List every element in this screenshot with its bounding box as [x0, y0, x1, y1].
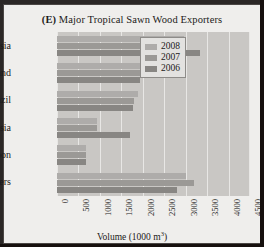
- bar-brazil-2006: [57, 105, 133, 111]
- bar-indonesia-2007: [57, 125, 97, 131]
- category-label-thailand: Thailand: [0, 67, 11, 78]
- x-tick-3500: 3500: [210, 199, 220, 229]
- legend-label-2006: 2006: [161, 63, 180, 74]
- bar-group: [57, 87, 250, 114]
- bar-group: [57, 169, 250, 196]
- bar-cameroon-2008: [57, 145, 86, 151]
- x-axis-title-main: Volume (1000 m: [97, 232, 161, 242]
- x-tick-1000: 1000: [103, 199, 113, 229]
- bar-others-2006: [57, 187, 177, 193]
- figure-page: (E) Major Tropical Sawn Wood Exporters M…: [3, 4, 261, 244]
- x-axis-title: Volume (1000 m3): [4, 230, 260, 242]
- x-tick-4000: 4000: [232, 199, 242, 229]
- x-tick-2000: 2000: [146, 199, 156, 229]
- bar-group: [57, 141, 250, 168]
- x-tick-2500: 2500: [167, 199, 177, 229]
- x-tick-500: 500: [81, 199, 91, 229]
- category-label-indonesia: Indonesia: [0, 122, 11, 133]
- bar-others-2007: [57, 180, 194, 186]
- x-tick-3000: 3000: [189, 199, 199, 229]
- page-edge-right: [260, 0, 264, 247]
- legend-swatch-2007: [145, 55, 157, 61]
- bar-group: [57, 114, 250, 141]
- legend-item-2007: 2007: [145, 52, 180, 63]
- category-label-cameroon: Cameroon: [0, 149, 11, 160]
- bar-thailand-2006: [57, 77, 140, 83]
- x-tick-1500: 1500: [124, 199, 134, 229]
- category-label-brazil: Brazil: [0, 94, 11, 105]
- legend-label-2008: 2008: [161, 41, 180, 52]
- chart-title-text: Major Tropical Sawn Wood Exporters: [59, 14, 222, 25]
- panel-id: (E): [42, 14, 56, 25]
- x-tick-0: 0: [60, 199, 70, 229]
- legend-swatch-2008: [145, 44, 157, 50]
- bar-cameroon-2007: [57, 152, 86, 158]
- legend-item-2008: 2008: [145, 41, 180, 52]
- legend-label-2007: 2007: [161, 52, 180, 63]
- x-axis-title-close: ): [164, 232, 167, 242]
- bar-brazil-2007: [57, 98, 134, 104]
- legend-item-2006: 2006: [145, 63, 180, 74]
- chart-title: (E) Major Tropical Sawn Wood Exporters: [4, 14, 260, 25]
- bar-indonesia-2006: [57, 132, 130, 138]
- category-label-malaysia: Malaysia: [0, 40, 11, 51]
- bar-indonesia-2008: [57, 118, 97, 124]
- bar-brazil-2008: [57, 91, 138, 97]
- legend-swatch-2006: [145, 66, 157, 72]
- bar-others-2008: [57, 173, 186, 179]
- chart-figure: (E) Major Tropical Sawn Wood Exporters M…: [0, 0, 264, 247]
- legend: 200820072006: [140, 37, 186, 78]
- category-label-others: Others: [0, 176, 11, 187]
- bar-cameroon-2006: [57, 159, 86, 165]
